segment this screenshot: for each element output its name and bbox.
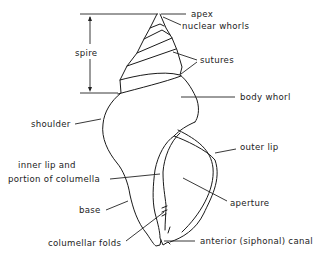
label-inner-lip-2: portion of columella bbox=[8, 174, 100, 184]
label-shoulder: shoulder bbox=[31, 119, 71, 129]
label-inner-lip-1: inner lip and bbox=[18, 160, 76, 170]
label-aperture: aperture bbox=[230, 198, 269, 208]
shell-diagram: apex nuclear whorls spire sutures body w… bbox=[0, 0, 321, 263]
label-anterior-canal: anterior (siphonal) canal bbox=[200, 236, 313, 246]
label-base: base bbox=[79, 205, 101, 215]
arrow-up-icon bbox=[88, 16, 92, 21]
label-apex: apex bbox=[191, 9, 213, 19]
labels: apex nuclear whorls spire sutures body w… bbox=[8, 9, 313, 248]
label-body-whorl: body whorl bbox=[240, 92, 291, 102]
label-sutures: sutures bbox=[200, 55, 234, 65]
label-outer-lip: outer lip bbox=[240, 142, 279, 152]
label-nuclear-whorls: nuclear whorls bbox=[182, 21, 249, 31]
arrow-down-icon bbox=[88, 87, 92, 92]
shell-outline bbox=[103, 14, 217, 246]
label-columellar-folds: columellar folds bbox=[48, 238, 121, 248]
label-spire: spire bbox=[75, 48, 97, 58]
